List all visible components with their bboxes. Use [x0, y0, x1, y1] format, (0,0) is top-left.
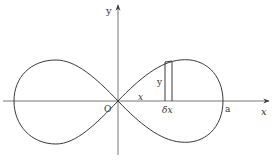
origin-label: O — [104, 104, 111, 114]
x-distance-label: x — [138, 92, 143, 102]
y-axis-label: y — [105, 5, 112, 16]
lemniscate-left-lobe — [14, 60, 118, 144]
strip-width-label: δx — [162, 105, 173, 115]
intercept-label: a — [225, 104, 231, 114]
area-strip — [165, 61, 172, 101]
x-axis-label: x — [261, 106, 267, 117]
strip-height-label: y — [156, 77, 163, 87]
lemniscate-diagram: y O x y δx a x — [0, 0, 275, 162]
